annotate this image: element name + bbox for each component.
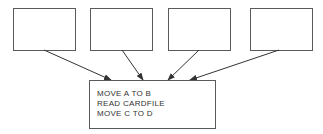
code-line-1: MOVE A TO B bbox=[97, 89, 151, 98]
code-box: MOVE A TO B READ CARDFILE MOVE C TO D bbox=[89, 80, 216, 129]
arrow-2 bbox=[122, 50, 143, 80]
code-line-2: READ CARDFILE bbox=[97, 99, 165, 108]
arrow-1 bbox=[44, 50, 111, 80]
code-line-3: MOVE C TO D bbox=[97, 109, 153, 118]
diagram-canvas: MOVE A TO B READ CARDFILE MOVE C TO D bbox=[0, 0, 323, 134]
arrow-3 bbox=[168, 50, 199, 80]
arrow-4 bbox=[190, 50, 279, 80]
